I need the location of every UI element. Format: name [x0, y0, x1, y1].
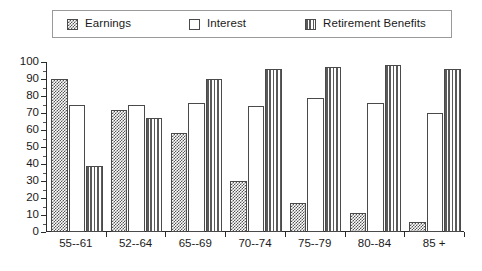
bar-group [404, 62, 464, 232]
chart-legend: EarningsInterestRetirement Benefits [52, 10, 452, 38]
y-axis-label: 80 [26, 90, 39, 102]
x-axis-label: 80--84 [358, 238, 391, 250]
bar-group [106, 62, 166, 232]
bar-group [285, 62, 345, 232]
x-axis-tick [464, 232, 465, 237]
x-axis-label: 85 + [423, 238, 446, 250]
x-axis-label: 52--64 [119, 238, 152, 250]
bar-interest [367, 103, 384, 232]
bar-earnings [230, 181, 247, 232]
legend-item-retirement-benefits: Retirement Benefits [305, 11, 426, 37]
legend-label: Earnings [85, 18, 131, 30]
bar-group [165, 62, 225, 232]
y-axis-label: 0 [33, 226, 39, 238]
plot-area: 0102030405060708090100 55--6152--6465--6… [46, 62, 464, 232]
x-axis-tick [165, 232, 166, 237]
bar-interest [248, 106, 265, 232]
x-axis-tick [404, 232, 405, 237]
y-axis-label: 100 [20, 56, 39, 68]
legend-swatch-earnings [67, 19, 78, 30]
bar-earnings [111, 110, 128, 232]
legend-item-earnings: Earnings [67, 11, 131, 37]
legend-label: Retirement Benefits [323, 18, 426, 30]
y-axis-tick [41, 232, 46, 233]
bar-earnings [290, 203, 307, 232]
legend-swatch-retirement-benefits [305, 19, 316, 30]
y-axis-label: 50 [26, 141, 39, 153]
bar-earnings [409, 222, 426, 232]
y-axis-label: 10 [26, 209, 39, 221]
bar-retirement-benefits [146, 118, 163, 232]
x-axis-tick [345, 232, 346, 237]
bar-retirement-benefits [325, 67, 342, 232]
bar-interest [188, 103, 205, 232]
bar-retirement-benefits [206, 79, 223, 232]
bar-earnings [350, 213, 367, 232]
legend-swatch-interest [189, 19, 200, 30]
bar-retirement-benefits [385, 65, 402, 232]
bar-interest [427, 113, 444, 232]
bar-group [225, 62, 285, 232]
bar-retirement-benefits [86, 166, 103, 232]
x-axis-label: 70--74 [238, 238, 271, 250]
x-axis-label: 55--61 [59, 238, 92, 250]
bar-group [46, 62, 106, 232]
bar-earnings [51, 79, 68, 232]
bar-earnings [171, 133, 188, 232]
x-axis-label: 65--69 [179, 238, 212, 250]
y-axis-label: 20 [26, 192, 39, 204]
bar-group [345, 62, 405, 232]
x-axis-tick [225, 232, 226, 237]
x-axis-tick [106, 232, 107, 237]
bar-retirement-benefits [444, 69, 461, 232]
bar-interest [69, 105, 86, 233]
bar-interest [128, 105, 145, 233]
x-axis-label: 75--79 [298, 238, 331, 250]
legend-label: Interest [207, 18, 246, 30]
y-axis-label: 40 [26, 158, 39, 170]
y-axis-label: 30 [26, 175, 39, 187]
bar-interest [307, 98, 324, 232]
legend-item-interest: Interest [189, 11, 246, 37]
y-axis-label: 70 [26, 107, 39, 119]
y-axis-label: 90 [26, 73, 39, 85]
y-axis-label: 60 [26, 124, 39, 136]
bar-retirement-benefits [265, 69, 282, 232]
x-axis-tick [285, 232, 286, 237]
